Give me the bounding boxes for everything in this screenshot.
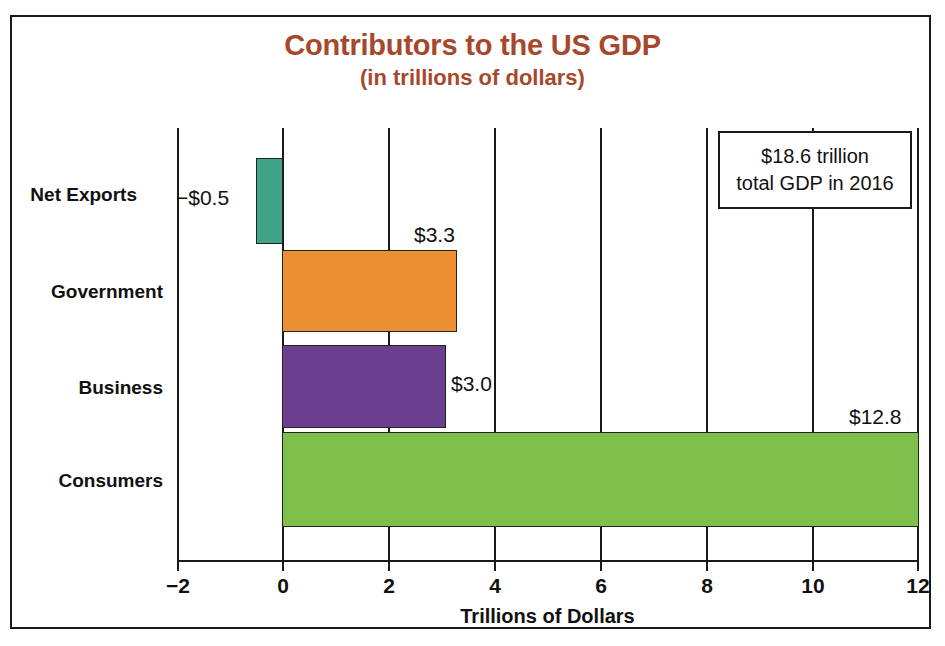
category-label-government: Government <box>51 281 163 303</box>
x-axis-title: Trillions of Dollars <box>177 605 918 628</box>
x-tick-label-0: 0 <box>277 574 289 598</box>
category-label-net-exports: Net Exports <box>30 184 137 206</box>
value-label-consumers: $12.8 <box>849 405 902 429</box>
x-tick-label-10: 10 <box>801 574 824 598</box>
tickmark-2 <box>388 562 390 571</box>
x-tick-label-12: 12 <box>906 574 929 598</box>
x-tick-label-6: 6 <box>595 574 607 598</box>
total-gdp-annotation: $18.6 trillion total GDP in 2016 <box>718 131 912 209</box>
bar-government[interactable]: Government <box>282 250 457 332</box>
bar-net-exports[interactable]: Net Exports <box>256 158 283 244</box>
x-tick-label-8: 8 <box>701 574 713 598</box>
annotation-line-2: total GDP in 2016 <box>736 170 894 197</box>
tickmark-4 <box>494 562 496 571</box>
value-label-net-exports: −$0.5 <box>176 186 229 210</box>
category-label-business: Business <box>79 377 163 399</box>
value-label-government: $3.3 <box>414 223 455 247</box>
tickmark-0 <box>282 562 284 571</box>
x-tick-label--2: −2 <box>166 574 190 598</box>
x-tick-label-2: 2 <box>383 574 395 598</box>
tickmark-12 <box>917 562 919 571</box>
tickmark-8 <box>706 562 708 571</box>
annotation-line-1: $18.6 trillion <box>761 143 869 170</box>
tickmark-6 <box>600 562 602 571</box>
bar-business[interactable]: Business <box>282 345 446 428</box>
x-axis-line <box>177 560 918 562</box>
title-block: Contributors to the US GDP (in trillions… <box>0 28 945 92</box>
bar-consumers[interactable]: Consumers <box>282 432 919 527</box>
chart-title: Contributors to the US GDP <box>0 28 945 62</box>
tickmark--2 <box>177 562 179 571</box>
tickmark-10 <box>812 562 814 571</box>
category-label-consumers: Consumers <box>58 470 163 492</box>
chart-figure: Contributors to the US GDP (in trillions… <box>0 0 945 646</box>
value-label-business: $3.0 <box>451 372 492 396</box>
x-tick-label-4: 4 <box>489 574 501 598</box>
chart-subtitle: (in trillions of dollars) <box>0 64 945 92</box>
